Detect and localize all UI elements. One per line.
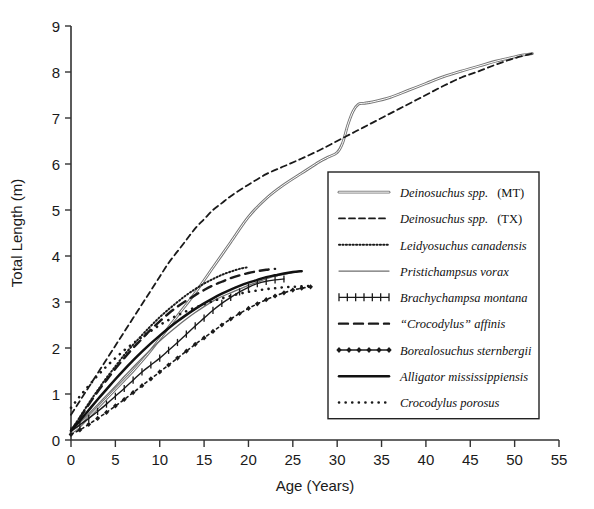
legend-label-4: Brachychampsa montana <box>400 291 527 305</box>
x-tick-label: 50 <box>506 451 523 468</box>
series-marker-6 <box>246 306 251 311</box>
x-tick-label: 20 <box>240 451 257 468</box>
y-axis-title: Total Length (m) <box>8 179 25 287</box>
series-marker-6 <box>255 301 260 306</box>
x-tick-label: 40 <box>418 451 435 468</box>
x-tick-label: 15 <box>196 451 213 468</box>
legend-label-8: Crocodylus porosus <box>400 396 500 410</box>
series-marker-6 <box>282 290 287 295</box>
x-tick-label: 55 <box>551 451 568 468</box>
legend-label-3: Pristichampsus vorax <box>399 265 509 279</box>
y-tick-label: 1 <box>52 386 60 403</box>
x-tick-label: 35 <box>373 451 390 468</box>
legend-label-5: “Crocodylus” affinis <box>400 317 506 331</box>
y-tick-label: 0 <box>52 432 60 449</box>
x-tick-label: 30 <box>329 451 346 468</box>
series-marker-6 <box>95 416 100 421</box>
series-line-5 <box>71 269 275 431</box>
y-tick-label: 4 <box>52 248 60 265</box>
legend-label-0: Deinosuchus spp.(MT) <box>399 186 524 200</box>
y-tick-label: 8 <box>52 64 60 81</box>
legend-label-2: Leidyosuchus canadensis <box>399 239 527 253</box>
x-tick-label: 0 <box>67 451 75 468</box>
legend-label-1: Deinosuchus spp.(TX) <box>399 212 522 226</box>
x-tick-label: 10 <box>151 451 168 468</box>
x-tick-label: 5 <box>111 451 119 468</box>
y-tick-label: 9 <box>52 18 60 35</box>
legend-label-7: Alligator mississippiensis <box>399 370 528 384</box>
x-tick-label: 25 <box>284 451 301 468</box>
x-axis-title: Age (Years) <box>276 477 355 494</box>
series-marker-6 <box>211 329 216 334</box>
series-marker-6 <box>273 293 278 298</box>
series-marker-6 <box>264 297 269 302</box>
figure-container: 01234567890510152025303540455055Age (Yea… <box>0 0 594 509</box>
y-tick-label: 5 <box>52 202 60 219</box>
series-marker-6 <box>148 376 153 381</box>
y-tick-label: 3 <box>52 294 60 311</box>
y-tick-label: 6 <box>52 156 60 173</box>
y-tick-label: 7 <box>52 110 60 127</box>
series-marker-6 <box>290 287 295 292</box>
legend-label-6: Borealosuchus sternbergii <box>400 344 532 358</box>
growth-curve-chart: 01234567890510152025303540455055Age (Yea… <box>0 0 594 509</box>
x-tick-label: 45 <box>462 451 479 468</box>
y-tick-label: 2 <box>52 340 60 357</box>
